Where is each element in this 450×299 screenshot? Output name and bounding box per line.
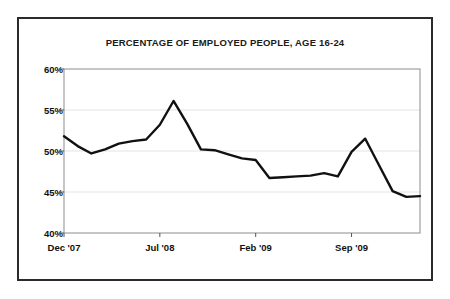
x-axis-tick-label: Feb '09: [240, 242, 272, 253]
x-axis-tick-label: Jul '08: [145, 242, 174, 253]
x-axis-tick-label: Dec '07: [48, 242, 81, 253]
x-axis-tick-label: Sep '09: [335, 242, 368, 253]
x-axis-labels: Dec '07Jul '08Feb '09Sep '09: [19, 19, 435, 283]
chart-figure: PERCENTAGE OF EMPLOYED PEOPLE, AGE 16-24…: [17, 17, 433, 281]
